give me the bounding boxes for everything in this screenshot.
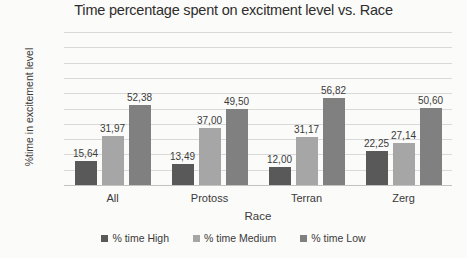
bar[interactable] <box>296 137 318 185</box>
legend-item[interactable]: % time High <box>101 232 169 244</box>
legend-swatch-icon <box>101 235 108 242</box>
x-axis-tick-label: Terran <box>252 192 362 204</box>
bar-value-label: 52,38 <box>110 92 170 103</box>
y-axis-title: %time in excitement level <box>23 27 35 187</box>
legend-item[interactable]: % time Low <box>300 232 365 244</box>
bar-slot: 12,00 <box>269 32 291 185</box>
bar-group: 13,4937,0049,50 <box>172 32 248 185</box>
bar-slot: 22,25 <box>366 32 388 185</box>
bar-slot: 15,64 <box>75 32 97 185</box>
legend-item[interactable]: % time Medium <box>193 232 276 244</box>
plot-area: 100908070605040302010015,6431,9752,3813,… <box>64 32 452 185</box>
x-axis-tick-label: Protoss <box>155 192 265 204</box>
bar-group: 22,2527,1450,60 <box>366 32 442 185</box>
bar[interactable] <box>269 167 291 185</box>
bar-group: 12,0031,1756,82 <box>269 32 345 185</box>
legend-label: % time High <box>112 232 169 244</box>
bar[interactable] <box>102 136 124 185</box>
bar-slot: 27,14 <box>393 32 415 185</box>
legend-label: % time Low <box>311 232 365 244</box>
bar[interactable] <box>420 108 442 185</box>
bar[interactable] <box>75 161 97 185</box>
bar[interactable] <box>129 105 151 185</box>
bar[interactable] <box>323 98 345 185</box>
legend-label: % time Medium <box>204 232 276 244</box>
legend-swatch-icon <box>300 235 307 242</box>
x-axis-tick-label: Zerg <box>349 192 459 204</box>
gridline <box>64 185 452 186</box>
bar-slot: 52,38 <box>129 32 151 185</box>
bar-value-label: 50,60 <box>401 95 461 106</box>
bar[interactable] <box>172 164 194 185</box>
x-axis-tick-label: All <box>58 192 168 204</box>
bar-value-label: 49,50 <box>207 96 267 107</box>
bar-slot: 37,00 <box>199 32 221 185</box>
bar[interactable] <box>366 151 388 185</box>
bar-slot: 31,17 <box>296 32 318 185</box>
bar-slot: 50,60 <box>420 32 442 185</box>
bar[interactable] <box>393 143 415 185</box>
bar[interactable] <box>199 128 221 185</box>
bar-group: 15,6431,9752,38 <box>75 32 151 185</box>
bar-value-label: 56,82 <box>304 85 364 96</box>
bar-chart: Time percentage spent on excitment level… <box>0 0 467 258</box>
bar-slot: 56,82 <box>323 32 345 185</box>
bar-slot: 49,50 <box>226 32 248 185</box>
bar-slot: 31,97 <box>102 32 124 185</box>
chart-legend: % time High% time Medium% time Low <box>0 232 467 244</box>
bar-slot: 13,49 <box>172 32 194 185</box>
bar[interactable] <box>226 109 248 185</box>
chart-title: Time percentage spent on excitment level… <box>0 2 467 18</box>
legend-swatch-icon <box>193 235 200 242</box>
x-axis-title: Race <box>64 210 452 222</box>
